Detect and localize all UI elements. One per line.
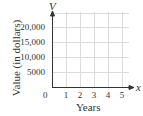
x-tick-2: 2 [75,91,85,100]
axes [51,11,135,90]
x-axis-variable: x [136,83,141,92]
x-tick-4: 4 [103,91,113,100]
x-axis-label: Years [76,101,101,113]
x-tick-3: 3 [89,91,99,100]
origin-label: 0 [43,91,48,100]
y-axis-variable: V [49,2,56,11]
x-tick-5: 5 [117,91,127,100]
x-tick-1: 1 [61,91,71,100]
y-axis-label: Value (in dollars) [10,8,22,108]
grid-lines [52,12,129,87]
